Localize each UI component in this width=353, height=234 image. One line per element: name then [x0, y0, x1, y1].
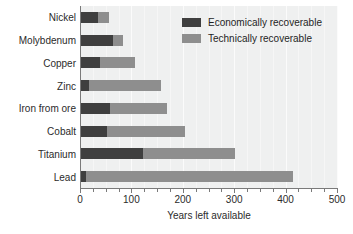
bar-segment: [110, 103, 167, 114]
x-axis-tick: [157, 189, 158, 192]
category-label: Nickel: [49, 12, 76, 23]
category-label: Zinc: [57, 80, 76, 91]
bar-stack: [80, 171, 293, 182]
bar-segment: [80, 148, 143, 159]
x-axis-tick: [260, 189, 261, 192]
bar-segment: [80, 12, 98, 23]
bar-stack: [80, 12, 109, 23]
x-axis-tick-label: 0: [77, 194, 83, 205]
x-axis-tick: [221, 189, 222, 192]
bar-chart: 0100200300400500 NickelMolybdenumCopperZ…: [0, 0, 353, 234]
category-label: Molybdenum: [19, 35, 76, 46]
bar-stack: [80, 148, 235, 159]
x-axis-tick: [273, 189, 274, 192]
bar-row: [80, 165, 293, 188]
x-axis-tick: [183, 189, 184, 193]
bar-row: [80, 74, 161, 97]
bar-stack: [80, 80, 161, 91]
x-axis-tick-label: 200: [174, 194, 191, 205]
bar-segment: [89, 80, 161, 91]
bar-stack: [80, 103, 167, 114]
bar-segment: [113, 35, 123, 46]
bar-segment: [86, 171, 293, 182]
x-axis-tick: [234, 189, 235, 193]
legend-swatch-icon: [182, 18, 201, 27]
x-axis-title: Years left available: [80, 210, 338, 221]
y-axis-line: [80, 6, 81, 188]
x-axis-tick: [80, 189, 81, 193]
bar-segment: [100, 57, 135, 68]
x-axis-tick: [247, 189, 248, 192]
x-axis-tick: [337, 189, 338, 193]
x-axis-tick: [131, 189, 132, 193]
legend-swatch-icon: [182, 34, 201, 43]
bar-segment: [80, 126, 107, 137]
gridline: [337, 6, 338, 188]
category-label: Lead: [54, 171, 76, 182]
x-axis-tick: [311, 189, 312, 192]
x-axis-tick-label: 500: [329, 194, 346, 205]
category-label: Titanium: [38, 148, 76, 159]
bar-row: [80, 120, 185, 143]
x-axis-tick: [119, 189, 120, 192]
x-axis-tick: [93, 189, 94, 192]
x-axis-tick: [196, 189, 197, 192]
bar-segment: [80, 35, 113, 46]
x-axis-tick-label: 300: [226, 194, 243, 205]
x-axis-tick: [170, 189, 171, 192]
x-axis-tick-label: 400: [277, 194, 294, 205]
x-axis-tick-label: 100: [123, 194, 140, 205]
legend-label: Technically recoverable: [208, 33, 312, 44]
x-axis-tick: [324, 189, 325, 192]
x-axis-tick: [298, 189, 299, 192]
bar-stack: [80, 35, 123, 46]
legend-item-economically-recoverable: Economically recoverable: [182, 16, 322, 28]
x-axis-tick: [144, 189, 145, 192]
bar-segment: [107, 126, 185, 137]
bar-stack: [80, 126, 185, 137]
bar-segment: [80, 80, 89, 91]
category-label: Cobalt: [47, 126, 76, 137]
bar-segment: [80, 103, 110, 114]
x-axis-tick: [106, 189, 107, 192]
chart-legend: Economically recoverable Technically rec…: [182, 16, 322, 48]
legend-label: Economically recoverable: [208, 17, 322, 28]
bar-row: [80, 143, 235, 166]
bar-segment: [143, 148, 235, 159]
category-label: Copper: [43, 57, 76, 68]
bar-stack: [80, 57, 135, 68]
bar-row: [80, 97, 167, 120]
x-axis-tick: [209, 189, 210, 192]
category-label: Iron from ore: [19, 103, 76, 114]
legend-item-technically-recoverable: Technically recoverable: [182, 32, 322, 44]
bar-segment: [80, 57, 100, 68]
bar-row: [80, 29, 123, 52]
x-axis-tick: [286, 189, 287, 193]
bar-segment: [98, 12, 109, 23]
bar-row: [80, 6, 109, 29]
bar-row: [80, 52, 135, 75]
